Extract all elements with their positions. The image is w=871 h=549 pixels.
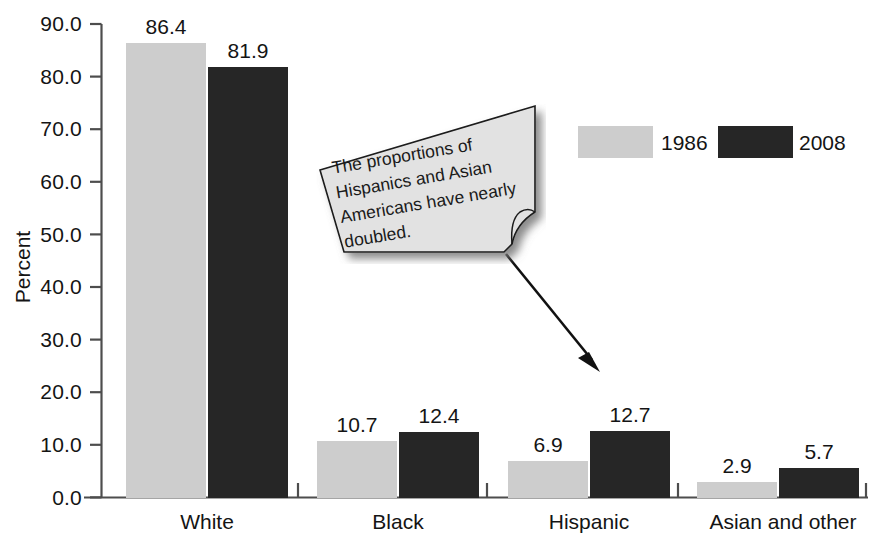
legend-swatch-1986	[578, 126, 653, 158]
y-tick-label: 30.0	[8, 329, 82, 350]
callout-note: The proportions of Hispanics and Asian A…	[316, 104, 534, 256]
y-tick-label: 20.0	[8, 381, 82, 402]
legend-label-1986: 1986	[661, 132, 708, 153]
bar-hispanic-2008	[590, 431, 670, 498]
bar-value-black-2008: 12.4	[399, 405, 479, 426]
x-category-label-hispanic: Hispanic	[529, 511, 649, 533]
bar-value-black-1986: 10.7	[317, 414, 397, 435]
bar-black-2008	[399, 432, 479, 498]
bar-value-asian-1986: 2.9	[697, 455, 777, 476]
bar-value-white-2008: 81.9	[208, 40, 288, 61]
bar-asian-2008	[779, 468, 859, 498]
y-tick-label: 70.0	[8, 118, 82, 139]
y-tick-label: 10.0	[8, 434, 82, 455]
y-axis-title: Percent	[11, 222, 35, 312]
x-category-label-black: Black	[338, 511, 458, 533]
y-tick-label: 60.0	[8, 171, 82, 192]
bar-value-hispanic-1986: 6.9	[508, 434, 588, 455]
y-tick-label: 80.0	[8, 66, 82, 87]
y-tick-label: 0.0	[8, 487, 82, 508]
bar-white-1986	[126, 43, 206, 498]
bar-white-2008	[208, 67, 288, 498]
callout-arrow	[506, 254, 600, 372]
x-category-label-white: White	[147, 511, 267, 533]
bar-value-white-1986: 86.4	[126, 16, 206, 37]
bar-asian-1986	[697, 482, 777, 498]
bar-chart: 90.0 80.0 70.0 60.0 50.0 40.0 30.0 20.0 …	[0, 0, 871, 549]
legend-swatch-2008	[718, 126, 793, 158]
bar-black-1986	[317, 441, 397, 498]
y-tick-marks	[90, 24, 102, 497]
bar-value-hispanic-2008: 12.7	[590, 404, 670, 425]
bar-value-asian-2008: 5.7	[779, 441, 859, 462]
bar-hispanic-1986	[508, 461, 588, 498]
x-category-label-asian-and-other: Asian and other	[703, 511, 863, 533]
y-tick-label: 90.0	[8, 13, 82, 34]
legend-label-2008: 2008	[799, 132, 846, 153]
